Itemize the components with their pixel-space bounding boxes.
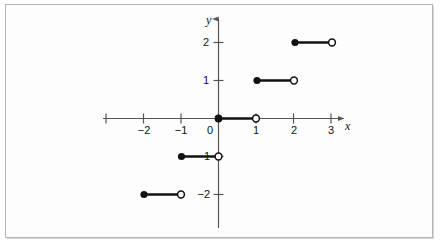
x-tick-label-neg2: −2: [133, 125, 155, 136]
figure-canvas: y x −2 −1 0 1 2 3 2 1 −1 −2: [0, 0, 441, 247]
closed-endpoint-dot: [291, 39, 298, 46]
x-axis-label: x: [345, 120, 350, 132]
y-axis-label: y: [206, 14, 211, 26]
step-segment-1: [253, 77, 297, 84]
step-segment-0: [215, 115, 260, 123]
step-segment-2: [291, 39, 335, 46]
x-tick-label-1: 1: [249, 125, 263, 136]
y-tick-label-2: 2: [195, 37, 209, 48]
open-endpoint-circle: [291, 77, 298, 84]
open-endpoint-circle: [329, 39, 336, 46]
open-endpoint-circle: [253, 115, 260, 122]
x-tick-label-2: 2: [287, 125, 301, 136]
x-tick-label-3: 3: [324, 125, 338, 136]
closed-endpoint-dot: [253, 77, 260, 84]
open-endpoint-circle: [178, 191, 185, 198]
closed-endpoint-dot: [140, 191, 147, 198]
step-function-plot: [0, 0, 441, 247]
y-tick-label-neg1: −1: [188, 151, 210, 162]
closed-endpoint-dot: [178, 153, 185, 160]
y-axis-group: [214, 19, 224, 228]
open-endpoint-circle: [215, 153, 222, 160]
y-tick-label-1: 1: [195, 75, 209, 86]
origin-tick-label: 0: [203, 125, 217, 136]
step-segment-neg2: [140, 191, 184, 198]
closed-endpoint-dot: [215, 115, 223, 123]
x-tick-label-neg1: −1: [170, 125, 192, 136]
y-tick-label-neg2: −2: [188, 189, 210, 200]
